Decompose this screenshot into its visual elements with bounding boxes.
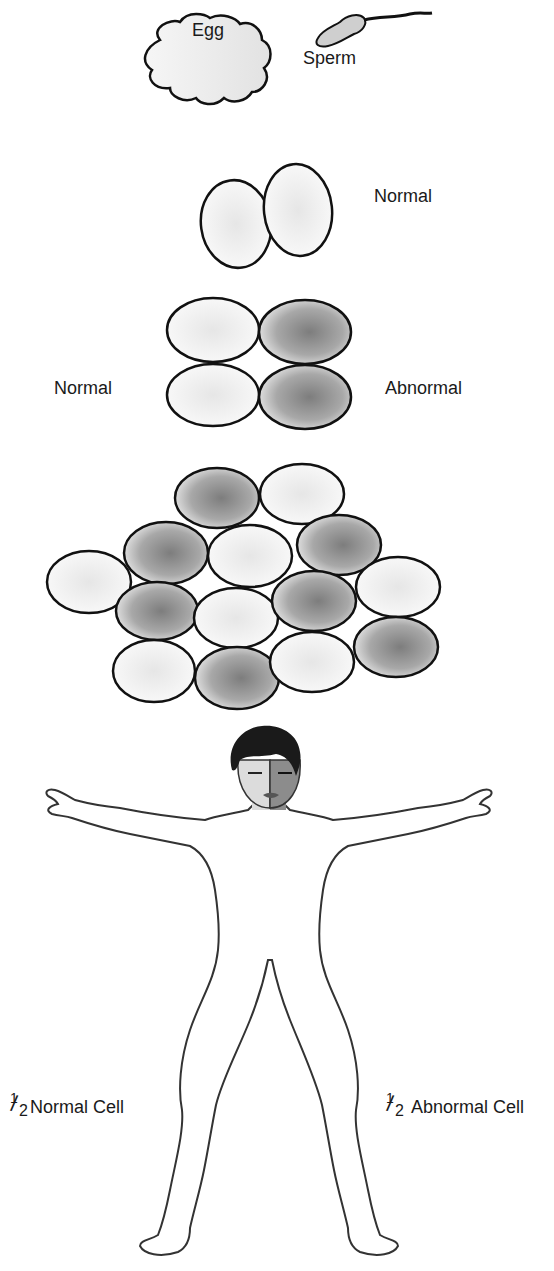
two-cell-right <box>259 161 336 260</box>
two-cell-normal-label: Normal <box>374 186 432 207</box>
four-cell-normal-bottom <box>167 364 259 426</box>
human-figure <box>46 726 491 1255</box>
four-cell-abnormal-bottom <box>259 365 351 429</box>
sperm-label: Sperm <box>303 48 356 69</box>
morula-cluster <box>47 464 440 709</box>
two-cell-left <box>195 176 277 273</box>
egg-label: Egg <box>192 20 224 41</box>
sperm-tail <box>364 13 432 20</box>
sperm-cell-icon <box>316 15 365 46</box>
half-abnormal-cell-label: Abnormal Cell <box>411 1097 524 1118</box>
four-cell-normal-label: Normal <box>54 378 112 399</box>
four-cell-abnormal-top <box>259 300 351 364</box>
half-normal-cell-label: Normal Cell <box>30 1097 124 1118</box>
mosaicism-diagram <box>0 0 554 1271</box>
four-cell-normal-top <box>167 298 259 362</box>
four-cell-abnormal-label: Abnormal <box>385 378 462 399</box>
